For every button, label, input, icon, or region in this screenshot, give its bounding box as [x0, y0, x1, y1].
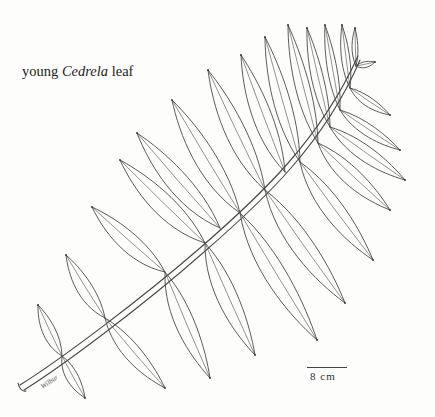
leaf-drawing [0, 0, 435, 417]
scale-bar-label: 8 cm [310, 370, 336, 382]
lower-leaflets [62, 61, 406, 399]
illustration-canvas: young Cedrela leaf 8 cm Wilbur [0, 0, 435, 417]
scale-bar [307, 367, 347, 368]
